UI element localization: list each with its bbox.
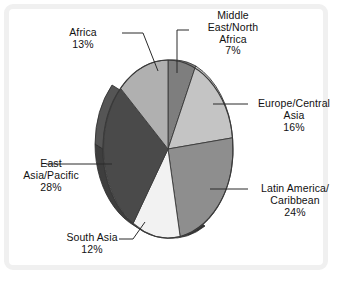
pie-label-europe-central-asia: Europe/Central Asia 16%	[250, 98, 338, 133]
pie-label-latin-america-caribbean: Latin America/ Caribbean 24%	[250, 183, 340, 218]
pie-label-africa: Africa 13%	[46, 27, 120, 51]
pie-slices	[104, 60, 234, 238]
pie-label-middle-east-north-africa: Middle East/North Africa 7%	[191, 10, 275, 57]
pie-label-south-asia: South Asia 12%	[44, 232, 140, 256]
pie-label-east-asia-pacific: East Asia/Pacific 28%	[8, 158, 94, 193]
